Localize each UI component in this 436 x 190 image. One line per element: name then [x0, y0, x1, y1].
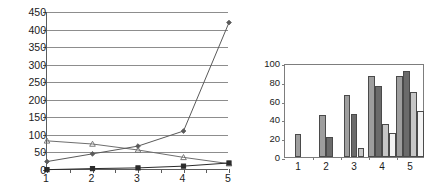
line-series-3	[45, 161, 231, 172]
bar-bar-series-1-cat5	[396, 76, 402, 157]
x-axis-label-2: 2	[82, 173, 102, 184]
data-point-series-2-x3	[136, 144, 141, 149]
y-axis-label-450: 450	[16, 7, 46, 18]
bar-y-axis-label-80: 80	[256, 78, 280, 88]
data-point-series-3-x5	[227, 161, 231, 165]
x-tickmark-minor-3	[206, 170, 207, 173]
y-axis-label-250: 250	[16, 77, 46, 88]
bar-x-axis-label-5: 5	[400, 162, 420, 172]
bar-bar-series-2-cat4	[375, 86, 381, 157]
bar-x-axis-label-3: 3	[344, 162, 364, 172]
bar-bar-series-1-cat4	[368, 76, 374, 157]
bar-bar-series-4-cat4	[389, 133, 395, 157]
x-tickmark-minor-2	[161, 170, 162, 173]
line-chart: 050100150200250300350400450 12345	[0, 0, 240, 190]
bar-bar-series-3-cat4	[382, 124, 388, 157]
bar-x-axis-label-2: 2	[316, 162, 336, 172]
bar-y-axis-label-40: 40	[256, 115, 280, 125]
x-axis-label-4: 4	[173, 173, 193, 184]
bar-bar-series-4-cat5	[417, 111, 423, 157]
bar-x-axis-label-4: 4	[372, 162, 392, 172]
line-chart-series-layer	[47, 12, 229, 170]
line-path-series-2	[47, 23, 229, 162]
bar-bar-series-2-cat5	[403, 71, 409, 157]
bar-y-axis-label-20: 20	[256, 134, 280, 144]
bar-y-axis-label-100: 100	[256, 59, 280, 69]
line-chart-plot-area	[46, 12, 228, 170]
data-point-series-2-x4	[181, 129, 186, 134]
data-point-series-2-x2	[90, 151, 95, 156]
data-point-series-3-x3	[136, 166, 140, 170]
bar-y-tickmark-100	[282, 65, 285, 66]
bar-chart: 020406080100 12345	[252, 56, 436, 190]
data-point-series-3-x4	[181, 164, 185, 168]
bar-y-tickmark-60	[282, 103, 285, 104]
bar-y-axis-label-0: 0	[256, 153, 280, 163]
x-axis-label-3: 3	[127, 173, 147, 184]
chart-page: 050100150200250300350400450 12345 020406…	[0, 0, 436, 190]
bar-x-tickmark-1	[313, 157, 314, 160]
bar-x-axis-label-1: 1	[288, 162, 308, 172]
bar-x-tickmark-4	[397, 157, 398, 160]
bar-x-tickmark-3	[369, 157, 370, 160]
data-point-series-3-x2	[90, 166, 94, 170]
x-tickmark-minor-0	[70, 170, 71, 173]
bar-chart-plot-area	[284, 64, 424, 158]
line-series-1	[44, 138, 232, 166]
bar-y-tickmark-0	[282, 159, 285, 160]
bar-bar-series-2-cat2	[326, 137, 332, 157]
y-axis-label-150: 150	[16, 112, 46, 123]
bar-bar-series-1-cat3	[344, 95, 350, 157]
bar-bar-series-1-cat2	[319, 115, 325, 157]
bar-y-tickmark-80	[282, 84, 285, 85]
bar-bar-series-1-cat1	[295, 134, 301, 157]
bar-bar-series-3-cat5	[410, 92, 416, 157]
data-point-series-2-x5	[227, 20, 232, 25]
y-axis-label-300: 300	[16, 60, 46, 71]
x-axis-label-1: 1	[36, 173, 56, 184]
y-axis-label-200: 200	[16, 95, 46, 106]
y-axis-label-400: 400	[16, 25, 46, 36]
x-axis-label-5: 5	[218, 173, 238, 184]
bar-y-tickmark-20	[282, 140, 285, 141]
y-axis-label-100: 100	[16, 130, 46, 141]
y-axis-label-50: 50	[16, 147, 46, 158]
y-axis-label-350: 350	[16, 42, 46, 53]
bar-bar-series-2-cat3	[351, 114, 357, 157]
bar-y-axis-label-60: 60	[256, 97, 280, 107]
bar-bar-series-3-cat3	[358, 148, 364, 157]
bar-x-tickmark-2	[341, 157, 342, 160]
x-tickmark-minor-1	[115, 170, 116, 173]
bar-y-tickmark-40	[282, 121, 285, 122]
